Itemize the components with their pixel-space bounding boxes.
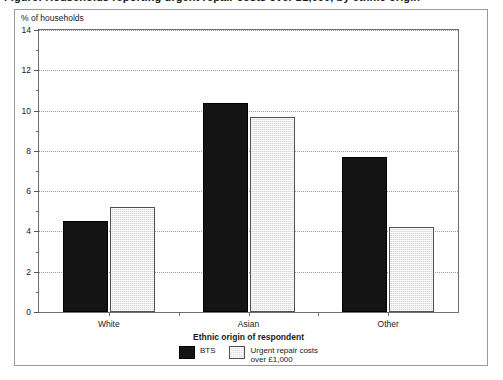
legend-item-bts[interactable]: BTS bbox=[179, 345, 216, 359]
gridline bbox=[39, 70, 458, 71]
y-axis-title: % of households bbox=[21, 13, 84, 23]
y-axis-minor-tick bbox=[36, 292, 39, 293]
x-axis-tick bbox=[388, 312, 389, 316]
x-axis-group-separator-tick bbox=[318, 312, 319, 316]
legend-item-urgent-repair-costs[interactable]: Urgent repair costs over £1,000 bbox=[229, 345, 318, 364]
y-axis-tick-label: 14 bbox=[22, 25, 31, 35]
y-axis-minor-tick bbox=[36, 131, 39, 132]
plot-area: 02468101214WhiteAsianOther bbox=[38, 29, 459, 313]
y-axis-minor-tick bbox=[36, 90, 39, 91]
y-axis-tick bbox=[34, 70, 39, 71]
x-axis-category-label: Other bbox=[378, 319, 399, 329]
figure-caption-strip: Figure: Households reporting urgent repa… bbox=[0, 0, 503, 7]
y-axis-minor-tick bbox=[36, 211, 39, 212]
y-axis-tick bbox=[34, 111, 39, 112]
y-axis-tick-label: 6 bbox=[26, 186, 31, 196]
y-axis-minor-tick bbox=[36, 252, 39, 253]
y-axis-tick bbox=[34, 191, 39, 192]
y-axis-tick bbox=[34, 312, 39, 313]
y-axis-tick-label: 2 bbox=[26, 267, 31, 277]
bar-asian-urgent-repair-costs bbox=[250, 117, 295, 312]
x-axis-tick bbox=[109, 312, 110, 316]
bar-white-urgent-repair-costs bbox=[110, 207, 155, 312]
bar-asian-bts bbox=[203, 103, 248, 312]
chart-legend: BTS Urgent repair costs over £1,000 bbox=[38, 345, 459, 364]
bar-white-bts bbox=[63, 221, 108, 312]
gridline bbox=[39, 111, 458, 112]
bar-other-urgent-repair-costs bbox=[389, 227, 434, 312]
gridline bbox=[39, 191, 458, 192]
legend-swatch-urgent-repair-costs bbox=[229, 346, 245, 359]
x-axis-category-label: Asian bbox=[238, 319, 259, 329]
legend-label-bts: BTS bbox=[200, 345, 216, 355]
y-axis-tick-label: 10 bbox=[22, 106, 31, 116]
legend-swatch-bts bbox=[179, 346, 195, 359]
y-axis-tick bbox=[34, 231, 39, 232]
y-axis-tick bbox=[34, 30, 39, 31]
gridline bbox=[39, 30, 458, 31]
y-axis-tick bbox=[34, 272, 39, 273]
gridline bbox=[39, 151, 458, 152]
y-axis-minor-tick bbox=[36, 50, 39, 51]
y-axis-minor-tick bbox=[36, 171, 39, 172]
y-axis-tick-label: 8 bbox=[26, 146, 31, 156]
y-axis-tick-label: 12 bbox=[22, 65, 31, 75]
x-axis-title: Ethnic origin of respondent bbox=[38, 332, 459, 342]
figure-caption: Figure: Households reporting urgent repa… bbox=[4, 0, 420, 3]
x-axis-group-separator-tick bbox=[179, 312, 180, 316]
y-axis-tick-label: 0 bbox=[26, 307, 31, 317]
x-axis-category-label: White bbox=[98, 319, 120, 329]
y-axis-tick-label: 4 bbox=[26, 226, 31, 236]
bar-other-bts bbox=[342, 157, 387, 312]
y-axis-tick bbox=[34, 151, 39, 152]
legend-label-urgent-repair-costs: Urgent repair costs over £1,000 bbox=[250, 345, 318, 364]
x-axis-tick bbox=[249, 312, 250, 316]
